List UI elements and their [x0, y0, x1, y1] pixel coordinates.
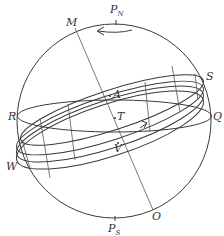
- celestial-sphere-diagram: PN PS M O R Q S W A T V: [0, 0, 224, 236]
- point-t: [114, 117, 116, 119]
- label-m: M: [65, 16, 78, 29]
- label-a: A: [112, 88, 121, 101]
- label-v: V: [114, 142, 123, 155]
- label-w: W: [6, 160, 19, 173]
- band-direction-arrow-icon: [140, 121, 147, 128]
- label-south-pole: PS: [107, 222, 120, 236]
- label-r: R: [7, 110, 16, 123]
- label-q: Q: [213, 110, 222, 123]
- rotation-arrow-icon: [97, 27, 132, 35]
- label-t: T: [117, 110, 126, 123]
- point-a: [109, 95, 111, 97]
- label-s: S: [206, 70, 214, 83]
- label-o: O: [152, 210, 161, 223]
- axis-line-m-o: [75, 28, 153, 210]
- label-north-pole: PN: [109, 3, 124, 18]
- inclined-band: [9, 61, 211, 185]
